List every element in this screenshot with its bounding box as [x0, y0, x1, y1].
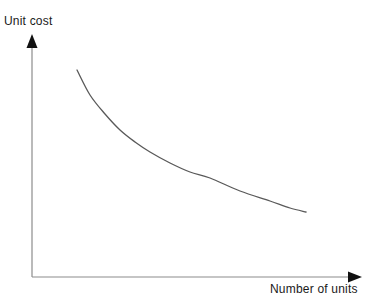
- unit-cost-curve: [77, 70, 306, 212]
- y-axis-label: Unit cost: [4, 15, 52, 28]
- chart-figure: Unit cost Number of units: [0, 0, 374, 305]
- chart-canvas: [0, 0, 374, 305]
- x-axis-label: Number of units: [270, 283, 358, 296]
- arrow-right-icon: [348, 272, 362, 283]
- arrow-up-icon: [27, 34, 38, 48]
